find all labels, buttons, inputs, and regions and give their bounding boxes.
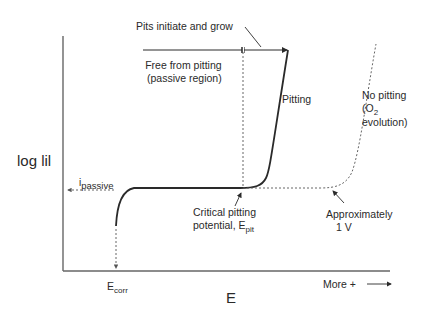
no-pitting-line1: No pitting (362, 89, 408, 102)
critical-pitting-pointer (235, 193, 241, 206)
free-from-pitting-label: Free from pitting (passive region) (145, 59, 222, 85)
free-from-pitting-line2: (passive region) (145, 72, 222, 85)
pits-initiate-label: Pits initiate and grow (136, 20, 233, 33)
approx-1v-label: Approximately 1 V (326, 208, 393, 234)
critical-pitting-label: Critical pitting potential, Epit (193, 206, 256, 233)
approx-line1: Approximately (326, 208, 393, 221)
no-pitting-dashed-curve (243, 44, 376, 188)
y-axis-label: log lil (17, 154, 51, 167)
critical-line1: Critical pitting (193, 206, 256, 219)
no-pitting-label: No pitting (O2 evolution) (362, 89, 408, 129)
x-axis-label: E (226, 291, 236, 304)
no-pitting-line2: (O2 (362, 102, 408, 116)
i-passive-label: ipassive (79, 176, 113, 189)
no-pitting-line3: evolution) (362, 116, 408, 129)
pitting-polarization-diagram (0, 0, 425, 316)
pits-initiate-leader (245, 27, 261, 47)
more-positive-label: More + (323, 278, 356, 291)
ecorr-label: Ecorr (107, 280, 128, 294)
approx-1v-pointer (333, 191, 344, 203)
approx-line2: 1 V (326, 221, 393, 234)
critical-line2: potential, Epit (193, 219, 256, 233)
pitting-label: Pitting (282, 93, 311, 106)
free-from-pitting-line1: Free from pitting (145, 59, 222, 72)
